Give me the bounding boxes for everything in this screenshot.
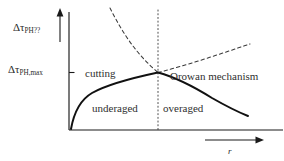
y-axis-label-subscript: PH??: [25, 27, 41, 35]
annotation-overaged: overaged: [163, 103, 203, 114]
annotation-underaged: underaged: [92, 103, 138, 114]
y-tick-label-max: ΔτPH,max: [8, 64, 43, 76]
annotation-cutting: cutting: [85, 68, 116, 79]
x-axis-arrow: [205, 137, 264, 144]
x-axis-label: r: [228, 147, 232, 156]
dashed-curve-decreasing: [110, 8, 158, 73]
y-axis-label-delta-tau: Δτ: [13, 21, 25, 33]
precipitation-hardening-figure: ΔτPH?? ΔτPH,max r cutting Orowan mechani…: [0, 0, 284, 161]
y-axis-arrow: [57, 8, 64, 42]
y-tick-label-delta-tau: Δτ: [8, 63, 20, 75]
annotation-orowan-mechanism: Orowan mechanism: [170, 71, 258, 82]
dashed-curve-increasing: [158, 44, 250, 73]
y-axis-label: ΔτPH??: [13, 22, 40, 34]
y-tick-label-subscript: PH,max: [20, 69, 43, 77]
